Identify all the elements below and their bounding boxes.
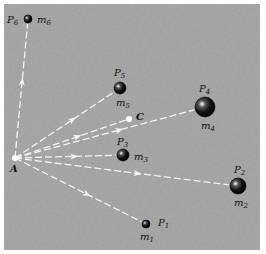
- center-of-mass-diagram: P1m1P2m2P3m3P4m4P5m5P6m6 A C: [0, 0, 266, 254]
- mass-ball-m3: [117, 149, 129, 161]
- origin-label: A: [9, 163, 18, 174]
- mass-ball-m5: [114, 82, 126, 94]
- mass-ball-m2: [230, 178, 246, 194]
- mass-ball-m1: [142, 220, 150, 228]
- center-of-mass-point: [126, 116, 132, 122]
- mass-ball-m6: [24, 15, 32, 23]
- mass-ball-m4: [195, 97, 215, 117]
- center-of-mass-label: C: [136, 111, 144, 122]
- origin-point-A: [12, 155, 18, 161]
